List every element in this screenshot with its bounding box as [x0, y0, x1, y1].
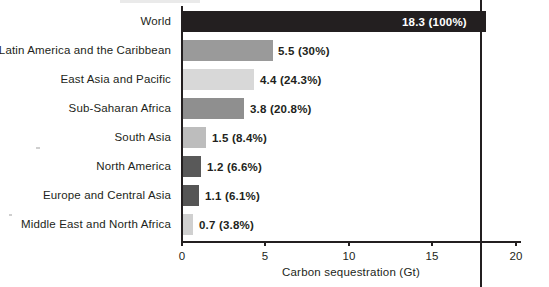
bar-value-label: 4.4 (24.3%)	[260, 74, 322, 86]
category-axis-labels: World Latin America and the Caribbean Ea…	[0, 6, 176, 241]
category-label: East Asia and Pacific	[60, 73, 171, 85]
x-tick-label: 5	[262, 250, 268, 262]
x-tick	[264, 241, 266, 246]
bar-north-america[interactable]	[181, 156, 201, 177]
bar-row: 4.4 (24.3%)	[181, 69, 521, 90]
category-label: Europe and Central Asia	[43, 189, 171, 201]
bar-value-label: 18.3 (100%)	[402, 16, 467, 28]
bar-row: 18.3 (100%)	[181, 11, 521, 32]
x-tick	[515, 241, 517, 246]
x-tick-label: 15	[426, 250, 439, 262]
category-label: Middle East and North Africa	[21, 218, 171, 230]
bar-middle-east-and-north-africa[interactable]	[181, 214, 193, 235]
x-tick	[431, 241, 433, 246]
bar-south-asia[interactable]	[181, 127, 206, 148]
bar-value-label: 1.1 (6.1%)	[205, 190, 260, 202]
bar-europe-and-central-asia[interactable]	[181, 185, 199, 206]
bar-value-label: 0.7 (3.8%)	[199, 219, 254, 231]
bar-row: 1.2 (6.6%)	[181, 156, 521, 177]
category-label: South Asia	[115, 131, 171, 143]
category-label: Latin America and the Caribbean	[0, 44, 171, 56]
bar-sub-saharan-africa[interactable]	[181, 98, 244, 119]
scan-artifact-top	[120, 0, 200, 3]
bar-value-label: 5.5 (30%)	[278, 45, 330, 57]
bar-latin-america-and-the-caribbean[interactable]	[181, 40, 273, 61]
bar-row: 5.5 (30%)	[181, 40, 521, 61]
x-axis-title: Carbon sequestration (Gt)	[181, 266, 521, 278]
bar-value-label: 1.5 (8.4%)	[212, 132, 267, 144]
bar-row: 3.8 (20.8%)	[181, 98, 521, 119]
category-label: Sub-Saharan Africa	[69, 102, 171, 114]
x-tick-label: 10	[343, 250, 356, 262]
bar-value-label: 1.2 (6.6%)	[207, 161, 262, 173]
plot-area: 18.3 (100%) 5.5 (30%) 4.4 (24.3%) 3.8 (2…	[181, 6, 521, 241]
x-tick-label: 20	[510, 250, 523, 262]
x-tick-label: 0	[179, 250, 185, 262]
category-label: North America	[96, 160, 171, 172]
y-axis-line	[181, 6, 183, 242]
bar-row: 0.7 (3.8%)	[181, 214, 521, 235]
vertical-annotation-line	[480, 0, 482, 287]
category-label: World	[140, 15, 171, 27]
bar-east-asia-and-pacific[interactable]	[181, 69, 254, 90]
bar-row: 1.5 (8.4%)	[181, 127, 521, 148]
chart-figure: World Latin America and the Caribbean Ea…	[0, 0, 549, 287]
x-tick	[348, 241, 350, 246]
bar-row: 1.1 (6.1%)	[181, 185, 521, 206]
x-axis-line	[181, 241, 521, 243]
bar-value-label: 3.8 (20.8%)	[250, 103, 312, 115]
x-tick	[181, 241, 183, 246]
